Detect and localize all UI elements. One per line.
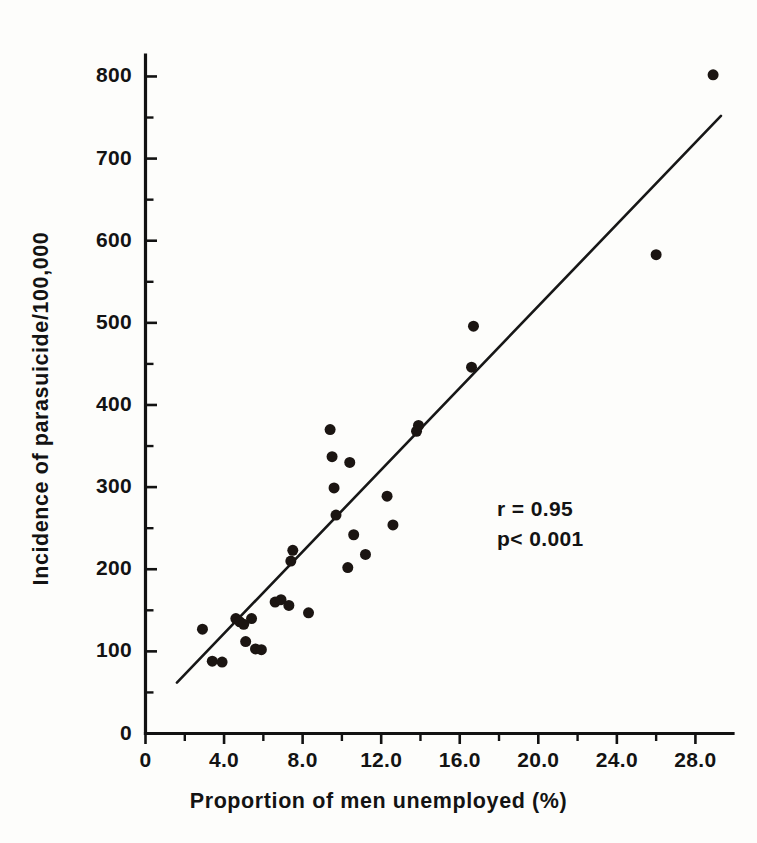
x-tick-label: 0 bbox=[101, 748, 191, 772]
data-point bbox=[387, 519, 398, 530]
data-point bbox=[325, 424, 336, 435]
scatter-plot-figure: 0100200300400500600700800 04.08.012.016.… bbox=[0, 0, 757, 843]
data-point bbox=[651, 249, 662, 260]
axis-group bbox=[146, 55, 734, 734]
correlation-value: r = 0.95 bbox=[497, 494, 584, 524]
y-tick-label: 600 bbox=[40, 228, 132, 252]
x-tick-label: 20.0 bbox=[493, 748, 583, 772]
x-axis-title: Proportion of men unemployed (%) bbox=[0, 789, 757, 814]
plot-canvas bbox=[0, 0, 757, 843]
data-point bbox=[207, 656, 218, 667]
y-tick-label: 300 bbox=[40, 474, 132, 498]
y-tick-label: 0 bbox=[40, 721, 132, 745]
regression-line bbox=[177, 116, 721, 683]
data-point bbox=[348, 529, 359, 540]
data-point bbox=[285, 556, 296, 567]
y-tick-label: 700 bbox=[40, 146, 132, 170]
y-tick-label: 200 bbox=[40, 556, 132, 580]
data-point bbox=[411, 426, 422, 437]
data-point bbox=[708, 69, 719, 80]
y-tick-label: 100 bbox=[40, 638, 132, 662]
data-point bbox=[287, 545, 298, 556]
data-point bbox=[240, 636, 251, 647]
data-point bbox=[246, 613, 257, 624]
data-point bbox=[256, 644, 267, 655]
x-tick-label: 4.0 bbox=[179, 748, 269, 772]
x-tick-label: 24.0 bbox=[572, 748, 662, 772]
data-point bbox=[303, 607, 314, 618]
data-point bbox=[217, 657, 228, 668]
x-tick-label: 12.0 bbox=[336, 748, 426, 772]
x-tick-label: 16.0 bbox=[415, 748, 505, 772]
data-point bbox=[327, 451, 338, 462]
y-tick-label: 800 bbox=[40, 63, 132, 87]
y-axis-ticks bbox=[146, 76, 158, 733]
data-point bbox=[360, 549, 371, 560]
data-point bbox=[344, 457, 355, 468]
data-point bbox=[466, 362, 477, 373]
data-point bbox=[382, 491, 393, 502]
data-point bbox=[329, 482, 340, 493]
y-tick-label: 500 bbox=[40, 310, 132, 334]
x-tick-label: 28.0 bbox=[650, 748, 740, 772]
data-points-group bbox=[197, 69, 719, 667]
data-point bbox=[197, 624, 208, 635]
data-point bbox=[331, 510, 342, 521]
data-point bbox=[468, 321, 479, 332]
statistics-annotation: r = 0.95 p< 0.001 bbox=[497, 494, 584, 555]
data-point bbox=[283, 600, 294, 611]
pvalue-text: p< 0.001 bbox=[497, 524, 584, 554]
y-tick-label: 400 bbox=[40, 392, 132, 416]
y-axis-title: Incidence of parasuicide/100,000 bbox=[29, 199, 54, 619]
x-tick-label: 8.0 bbox=[258, 748, 348, 772]
data-point bbox=[342, 562, 353, 573]
regression-line-segment bbox=[177, 116, 721, 683]
